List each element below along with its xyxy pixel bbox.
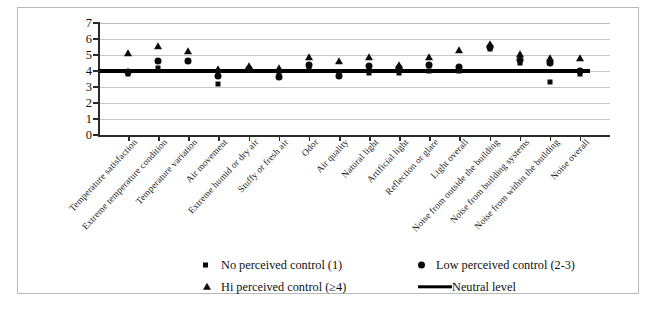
data-point-triangle bbox=[455, 46, 463, 53]
y-axis-tick bbox=[93, 38, 100, 40]
gridline bbox=[98, 103, 610, 104]
y-axis-tick-label: 3 bbox=[74, 81, 92, 94]
gridline bbox=[98, 119, 610, 120]
legend-label: Neutral level bbox=[452, 280, 516, 295]
data-point-triangle bbox=[365, 53, 373, 60]
y-axis-tick bbox=[93, 118, 100, 120]
data-point-triangle bbox=[214, 66, 222, 73]
y-axis-tick-label: 4 bbox=[74, 65, 92, 78]
data-point-triangle bbox=[576, 54, 584, 61]
y-axis-tick-label: 5 bbox=[74, 49, 92, 62]
x-axis-labels: Temperature satisfactionExtreme temperat… bbox=[98, 137, 657, 247]
data-point-triangle bbox=[124, 50, 132, 57]
data-point-triangle bbox=[425, 54, 433, 61]
data-point-circle bbox=[426, 62, 433, 69]
legend-marker-square bbox=[203, 263, 208, 268]
data-point-triangle bbox=[486, 40, 494, 47]
gridline bbox=[98, 23, 610, 24]
data-point-circle bbox=[335, 72, 342, 79]
legend-label: No perceived control (1) bbox=[221, 258, 342, 273]
y-axis-tick bbox=[93, 22, 100, 24]
data-point-square bbox=[547, 80, 552, 85]
y-axis-tick-label: 7 bbox=[74, 17, 92, 30]
data-point-square bbox=[367, 70, 372, 75]
data-point-circle bbox=[125, 68, 132, 75]
gridline bbox=[98, 87, 610, 88]
plot-area: 01234567 bbox=[98, 23, 610, 135]
data-point-circle bbox=[155, 57, 162, 64]
data-point-circle bbox=[305, 62, 312, 69]
data-point-triangle bbox=[154, 42, 162, 49]
legend-marker-circle bbox=[418, 262, 425, 269]
data-point-triangle bbox=[516, 50, 524, 57]
legend-marker-line bbox=[418, 285, 452, 288]
data-point-square bbox=[216, 81, 221, 86]
data-point-triangle bbox=[335, 57, 343, 64]
data-point-triangle bbox=[546, 54, 554, 61]
data-point-square bbox=[427, 69, 432, 74]
legend-marker-triangle bbox=[203, 283, 211, 290]
y-axis-tick-label: 2 bbox=[74, 97, 92, 110]
y-axis-tick bbox=[93, 86, 100, 88]
data-point-circle bbox=[275, 74, 282, 81]
data-point-square bbox=[156, 65, 161, 70]
y-axis-tick-label: 0 bbox=[74, 129, 92, 142]
legend-label: Hi perceived control (≥4) bbox=[221, 280, 346, 295]
gridline bbox=[98, 39, 610, 40]
data-point-circle bbox=[215, 72, 222, 79]
x-axis-label: Odor bbox=[299, 137, 320, 158]
chart-frame: Perceived comfort 01234567 Temperature s… bbox=[17, 7, 639, 294]
y-axis-tick bbox=[93, 70, 100, 72]
chart-legend: No perceived control (1)Low perceived co… bbox=[43, 256, 633, 300]
gridlines bbox=[98, 23, 610, 135]
data-point-circle bbox=[516, 56, 523, 63]
y-axis-tick bbox=[93, 134, 100, 136]
data-point-circle bbox=[366, 63, 373, 70]
data-point-circle bbox=[456, 64, 463, 71]
y-axis-tick bbox=[93, 54, 100, 56]
data-point-triangle bbox=[305, 54, 313, 61]
data-point-triangle bbox=[245, 62, 253, 69]
y-axis-tick bbox=[93, 102, 100, 104]
data-point-circle bbox=[576, 68, 583, 75]
data-point-triangle bbox=[184, 47, 192, 54]
neutral-level-line bbox=[98, 69, 590, 72]
gridline bbox=[98, 55, 610, 56]
y-axis-tick-label: 1 bbox=[74, 113, 92, 126]
legend-label: Low perceived control (2-3) bbox=[436, 258, 575, 273]
data-point-triangle bbox=[395, 62, 403, 69]
x-axis-label: Reflection or glare bbox=[384, 137, 441, 197]
data-point-circle bbox=[185, 57, 192, 64]
data-point-triangle bbox=[275, 64, 283, 71]
y-axis-tick-label: 6 bbox=[74, 33, 92, 46]
